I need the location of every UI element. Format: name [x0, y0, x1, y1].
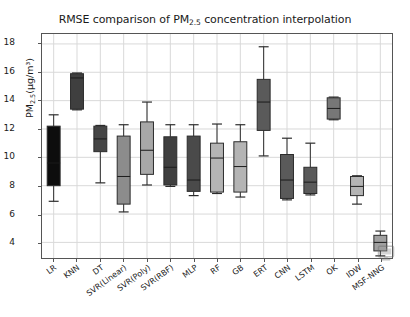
boxplot-gb [234, 125, 247, 197]
boxplot-knn [71, 73, 84, 110]
boxplot-svrpoly [141, 102, 154, 185]
x-tick-mark [287, 259, 288, 262]
x-tick-mark [240, 259, 241, 262]
plot-area [41, 33, 393, 259]
x-tick-mark [123, 259, 124, 262]
y-axis-label: PM2.5(μg/m³) [24, 28, 35, 148]
chart-figure: RMSE comparison of PM2.5 concentration i… [0, 0, 410, 317]
x-tick-mark [311, 259, 312, 262]
boxplot-cnn [281, 138, 294, 200]
y-tick-label: 16 [0, 66, 15, 76]
boxplot-idw [351, 176, 364, 204]
y-tick-label: 12 [0, 123, 15, 133]
x-tick-mark [170, 259, 171, 262]
x-tick-mark [147, 259, 148, 262]
y-tick-label: 4 [0, 237, 15, 247]
y-tick-label: 18 [0, 37, 15, 47]
boxplot-series [42, 34, 392, 258]
chart-title-pre: RMSE comparison of PM [59, 13, 189, 26]
y-tick-label: 10 [0, 151, 15, 161]
boxplot-svrlinear [117, 125, 130, 212]
chart-title-post: concentration interpolation [201, 13, 352, 26]
y-tick-label: 6 [0, 209, 15, 219]
chart-title: RMSE comparison of PM2.5 concentration i… [0, 13, 410, 26]
x-tick-mark [53, 259, 54, 262]
x-tick-mark [100, 259, 101, 262]
x-tick-mark [76, 259, 77, 262]
x-tick-mark [334, 259, 335, 262]
y-tick-label: 14 [0, 94, 15, 104]
boxplot-ok [327, 97, 340, 120]
boxplot-lr [47, 115, 60, 201]
boxplot-dt [94, 125, 107, 182]
y-axis-label-pre: PM [24, 104, 35, 118]
boxplot-svrrbf [164, 125, 177, 187]
y-axis-label-post: (μg/m³) [24, 58, 35, 94]
x-tick-mark [194, 259, 195, 262]
y-tick-label: 8 [0, 180, 15, 190]
monitor-icon [376, 244, 396, 262]
x-tick-mark [264, 259, 265, 262]
boxplot-mlp [187, 125, 200, 196]
x-tick-mark [358, 259, 359, 262]
boxplot-rf [211, 124, 224, 193]
x-tick-mark [217, 259, 218, 262]
y-axis-label-subscript: 2.5 [29, 94, 37, 104]
boxplot-ert [257, 47, 270, 156]
boxplot-lstm [304, 143, 317, 195]
chart-title-subscript: 2.5 [189, 18, 201, 27]
